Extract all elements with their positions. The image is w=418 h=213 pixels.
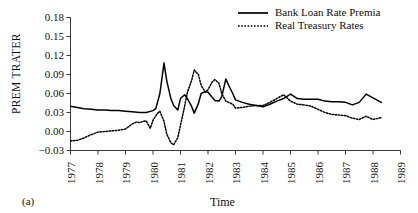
x-tick-label: 1977 — [66, 162, 77, 184]
x-tick-label: 1987 — [341, 162, 352, 184]
x-tick-label: 1988 — [369, 162, 380, 184]
x-axis-title: Time — [210, 196, 235, 208]
chart-legend: Bank Loan Rate Premia Real Treasury Rate… — [236, 6, 414, 32]
x-tick-label: 1978 — [94, 162, 105, 184]
y-axis-title: PREM TRATER — [11, 33, 23, 114]
y-tick-label: 0.06 — [22, 88, 64, 99]
y-tick-label: 0.00 — [22, 126, 64, 137]
x-tick-label: 1984 — [259, 162, 270, 184]
legend-key-dotted-line-icon — [236, 20, 270, 32]
x-tick-label: 1979 — [121, 162, 132, 184]
chart-series — [71, 63, 382, 145]
series-line-bank-loan-rate-premia — [71, 63, 382, 113]
legend-label-bank-loan-rate-premia: Bank Loan Rate Premia — [270, 7, 380, 18]
x-tick-label: 1980 — [149, 162, 160, 184]
x-tick-label: 1985 — [286, 162, 297, 184]
x-tick-label: 1982 — [204, 162, 215, 184]
legend-label-real-treasury-rates: Real Treasury Rates — [270, 20, 364, 31]
y-tick-label: 0.18 — [22, 12, 64, 23]
x-tick-label: 1989 — [396, 162, 407, 184]
x-tick-label: 1986 — [314, 162, 325, 184]
y-tick-label: 0.09 — [22, 69, 64, 80]
chart-axes — [67, 18, 401, 155]
legend-item-real-treasury-rates: Real Treasury Rates — [236, 19, 414, 32]
legend-key-solid-line-icon — [236, 7, 270, 19]
y-tick-label: 0.15 — [22, 31, 64, 42]
x-tick-label: 1983 — [231, 162, 242, 184]
y-tick-label: −0.03 — [22, 145, 64, 156]
panel-label: (a) — [22, 196, 34, 207]
y-tick-label: 0.12 — [22, 50, 64, 61]
chart-figure: −0.030.000.030.060.090.120.150.18 197719… — [0, 0, 418, 213]
legend-item-bank-loan-rate-premia: Bank Loan Rate Premia — [236, 6, 414, 19]
y-tick-label: 0.03 — [22, 107, 64, 118]
x-tick-label: 1981 — [176, 162, 187, 184]
